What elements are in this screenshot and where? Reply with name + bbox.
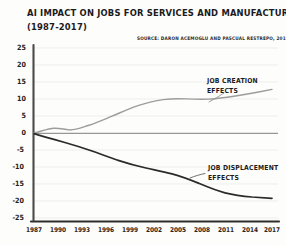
y-tick-neg15: -15 <box>4 180 24 189</box>
x-tick-2017: 2017 <box>257 226 286 233</box>
displacement-leader-line <box>190 174 205 179</box>
y-tick-15: 15 <box>6 78 26 87</box>
y-tick-25: 25 <box>6 44 26 53</box>
y-tick-neg25: -25 <box>4 214 24 223</box>
line-chart-plot <box>0 0 286 245</box>
y-tick-neg20: -20 <box>4 197 24 206</box>
y-tick-0: 0 <box>6 129 26 138</box>
job-displacement-effects-label: JOB DISPLACEMENT EFFECTS <box>208 163 278 182</box>
job-displacement-effects-label-line2: EFFECTS <box>208 173 278 183</box>
chart-card: AI IMPACT ON JOBS FOR SERVICES AND MANUF… <box>0 0 286 245</box>
y-tick-neg5: -5 <box>4 146 24 155</box>
y-tick-20: 20 <box>6 61 26 70</box>
job-creation-effects-label-line2: EFFECTS <box>207 86 258 96</box>
y-tick-10: 10 <box>6 95 26 104</box>
y-tick-neg10: -10 <box>4 163 24 172</box>
job-displacement-effects-label-line1: JOB DISPLACEMENT <box>208 163 278 173</box>
job-creation-effects-label: JOB CREATION EFFECTS <box>207 76 258 95</box>
job-creation-effects-label-line1: JOB CREATION <box>207 76 258 86</box>
job-creation-effects-line <box>34 89 272 133</box>
y-tick-5: 5 <box>6 112 26 121</box>
